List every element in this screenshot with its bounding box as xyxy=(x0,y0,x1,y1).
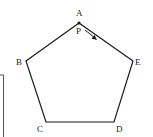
label-b: B xyxy=(16,57,22,67)
vertex-a-dot xyxy=(77,21,80,24)
frame-edge xyxy=(0,75,4,137)
label-d: D xyxy=(116,124,123,134)
pentagon-diagram: A B C D E P xyxy=(0,0,153,137)
label-p: P xyxy=(76,26,81,36)
label-e: E xyxy=(135,57,141,67)
label-c: C xyxy=(37,124,43,134)
label-a: A xyxy=(76,8,83,18)
pentagon-outline xyxy=(26,23,133,122)
